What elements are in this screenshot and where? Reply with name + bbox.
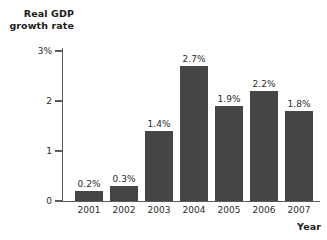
bar-group[interactable]: 0.3%: [110, 48, 138, 201]
x-axis-tick-label: 2003: [139, 205, 179, 215]
bar-value-label: 1.4%: [148, 119, 171, 129]
y-axis-tick-label: 1: [2, 146, 52, 156]
bar-value-label: 1.8%: [288, 99, 311, 109]
y-axis-title: Real GDP growth rate: [8, 8, 74, 32]
bar[interactable]: [180, 66, 208, 201]
x-axis-tick-label: 2005: [209, 205, 249, 215]
bar[interactable]: [285, 111, 313, 201]
bar-value-label: 2.7%: [183, 54, 206, 64]
bar-value-label: 1.9%: [218, 94, 241, 104]
x-axis-tick-label: 2006: [244, 205, 284, 215]
bar[interactable]: [110, 186, 138, 201]
y-axis-tick-label: 0: [2, 196, 52, 206]
x-axis-title: Year: [297, 221, 321, 232]
bar-group[interactable]: 1.4%: [145, 48, 173, 201]
bar-value-label: 2.2%: [253, 79, 276, 89]
bar[interactable]: [75, 191, 103, 201]
y-axis-tick-label: 2: [2, 96, 52, 106]
x-axis-tick-label: 2007: [279, 205, 319, 215]
x-axis-tick-label: 2002: [104, 205, 144, 215]
x-axis-line: [62, 201, 320, 202]
y-axis-tick-label: 3%: [2, 46, 52, 56]
bar[interactable]: [250, 91, 278, 201]
x-axis-tick-label: 2001: [69, 205, 109, 215]
bar-group[interactable]: 2.2%: [250, 48, 278, 201]
y-axis-title-line-1: Real GDP: [8, 8, 74, 20]
y-axis-title-line-2: growth rate: [8, 20, 74, 32]
bar-group[interactable]: 0.2%: [75, 48, 103, 201]
bar-group[interactable]: 2.7%: [180, 48, 208, 201]
gdp-growth-bar-chart: Real GDP growth rate 0123% 0.2%0.3%1.4%2…: [0, 0, 327, 240]
bar-value-label: 0.2%: [78, 179, 101, 189]
bar-value-label: 0.3%: [113, 174, 136, 184]
bar-group[interactable]: 1.9%: [215, 48, 243, 201]
plot-area: 0.2%0.3%1.4%2.7%1.9%2.2%1.8%: [62, 48, 320, 201]
x-axis-tick-label: 2004: [174, 205, 214, 215]
bar[interactable]: [145, 131, 173, 201]
bar[interactable]: [215, 106, 243, 201]
bar-group[interactable]: 1.8%: [285, 48, 313, 201]
